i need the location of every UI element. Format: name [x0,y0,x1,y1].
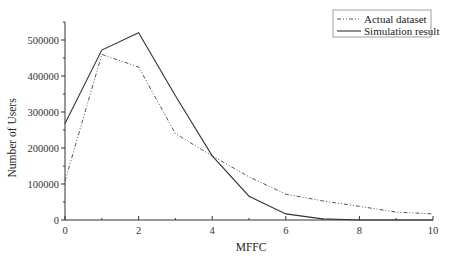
line-chart: 0100000200000300000400000500000 0246810 … [0,0,452,266]
y-tick-label: 100000 [28,179,60,190]
series-line-actual [65,54,433,214]
x-tick-label: 6 [283,225,288,236]
x-tick-label: 2 [136,225,141,236]
x-tick-label: 0 [62,225,67,236]
y-tick-label: 0 [54,215,59,226]
y-axis-label: Number of Users [6,98,18,178]
x-axis-label: MFFC [236,241,267,253]
axes [65,22,433,220]
plot-lines [65,33,433,220]
x-tick-label: 10 [428,225,439,236]
y-tick-label: 200000 [28,143,60,154]
x-axis-ticks: 0246810 [62,216,438,236]
legend: Actual dataset Simulation result [333,10,439,37]
series-line-simulation [65,33,433,220]
x-tick-label: 8 [357,225,362,236]
legend-label-simulation: Simulation result [364,25,439,37]
y-axis-ticks: 0100000200000300000400000500000 [28,22,66,226]
x-tick-label: 4 [210,225,216,236]
y-tick-label: 400000 [28,71,60,82]
y-tick-label: 500000 [28,35,60,46]
legend-label-actual: Actual dataset [364,13,427,25]
y-tick-label: 300000 [28,107,60,118]
